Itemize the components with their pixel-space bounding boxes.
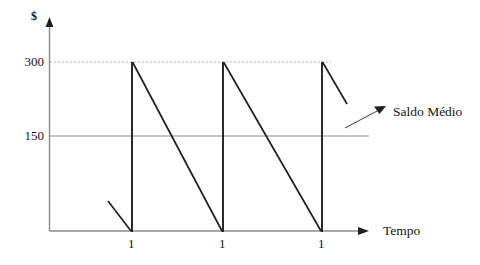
cash-balance-sawtooth-chart: $ 300 150 1 1 1 Tempo Saldo Médio (0, 0, 480, 265)
y-tick-label-300: 300 (14, 55, 44, 68)
x-tick-label-1: 1 (128, 237, 135, 250)
x-tick-label-2: 1 (219, 237, 226, 250)
x-tick-label-3: 1 (318, 237, 325, 250)
x-axis-arrowhead-icon (358, 227, 369, 235)
annotation-arrowhead-icon (374, 106, 386, 114)
y-tick-label-150: 150 (14, 129, 44, 142)
series-segment-decline-0 (108, 201, 131, 231)
series-segment-decline-3 (323, 62, 348, 104)
x-axis-label: Tempo (383, 224, 420, 238)
annotation-leader-line (345, 110, 379, 128)
series-segment-decline-1 (133, 62, 223, 231)
series-segment-decline-2 (224, 62, 322, 231)
y-axis-label: $ (31, 10, 37, 22)
y-axis-arrowhead-icon (46, 17, 54, 27)
saldo-medio-annotation-label: Saldo Médio (393, 105, 462, 119)
